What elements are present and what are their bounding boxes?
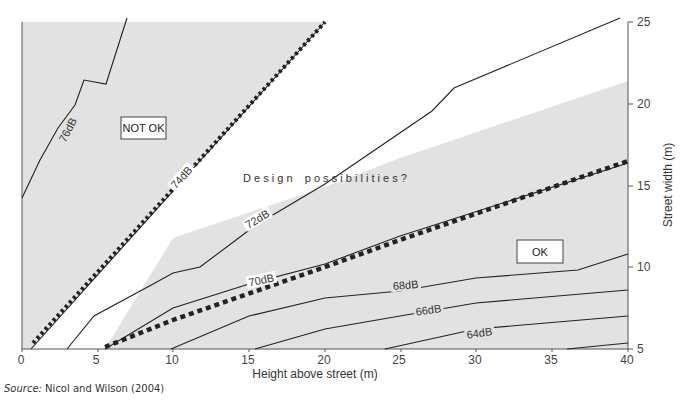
y-tick-label: 25 [637,15,651,29]
x-tick-label: 35 [544,353,558,367]
x-tick-label: 40 [620,353,634,367]
ok-label: OK [532,246,549,258]
contour-chart: 25 20 15 10 5 0 5 10 15 20 25 30 35 40 H… [0,0,693,403]
source-note: Source: Nicol and Wilson (2004) [4,383,164,394]
ok-box: OK [517,240,563,263]
y-axis-title: Street width (m) [661,143,675,228]
x-axis-title: Height above street (m) [252,367,377,381]
design-possibilities-label: D e s i g n p o s s i b i l i t i e s ? [243,172,407,184]
not-ok-label: NOT OK [123,122,166,134]
x-tick-label: 25 [392,353,406,367]
x-tick-labels: 0 5 10 15 20 25 30 35 40 [18,353,634,367]
label-68db: 68dB [392,278,419,292]
y-tick-label: 10 [637,260,651,274]
y-tick-label: 15 [637,179,651,193]
x-tick-label: 30 [468,353,482,367]
x-tick-label: 20 [317,353,331,367]
x-tick-label: 15 [241,353,255,367]
y-tick-labels: 25 20 15 10 5 [637,15,651,356]
source-prefix: Source: [4,383,42,394]
not-ok-box: NOT OK [121,117,166,139]
y-tick-label: 5 [637,342,644,356]
x-tick-label: 5 [93,353,100,367]
y-tick-label: 20 [637,97,651,111]
source-text: Nicol and Wilson (2004) [42,383,164,394]
y-ticks [628,22,633,349]
x-tick-label: 0 [18,353,25,367]
x-tick-label: 10 [165,353,179,367]
